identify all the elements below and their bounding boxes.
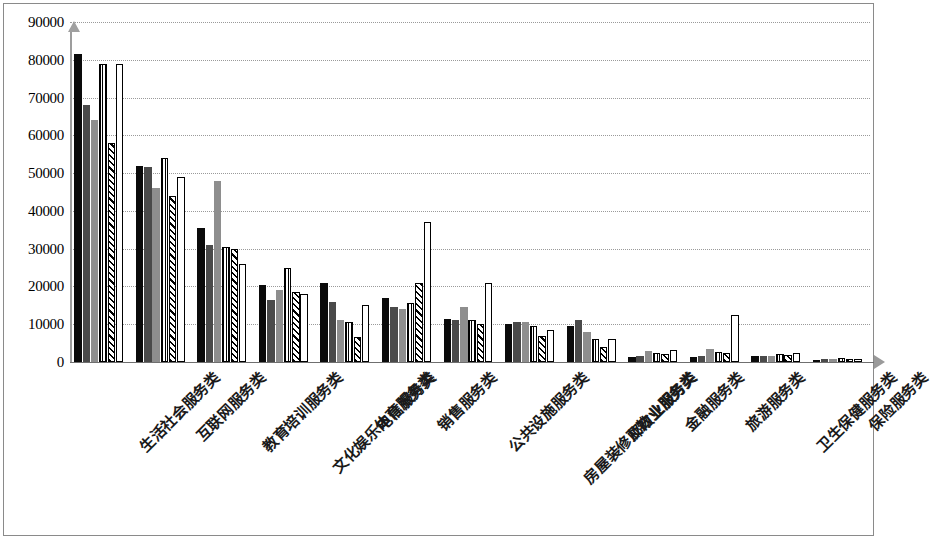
y-tick-label: 30000 — [0, 241, 64, 256]
y-tick-label: 40000 — [0, 203, 64, 218]
bar-group — [751, 22, 800, 362]
bar-group — [690, 22, 739, 362]
bar — [74, 54, 81, 362]
x-axis-arrow-icon — [874, 355, 885, 369]
bar — [231, 249, 238, 362]
y-axis — [70, 28, 72, 362]
bar — [793, 353, 800, 362]
bar-group — [813, 22, 862, 362]
x-tick-label: 公共设施服务类 — [507, 370, 592, 455]
bar — [169, 196, 176, 362]
bar — [784, 355, 791, 362]
bar — [91, 120, 98, 362]
bar — [821, 359, 828, 362]
bar — [362, 305, 369, 362]
bar — [415, 283, 422, 362]
bar — [768, 356, 775, 362]
bar — [177, 177, 184, 362]
x-tick-label: 旅游服务类 — [744, 370, 808, 434]
bar-group — [444, 22, 493, 362]
bar — [276, 290, 283, 362]
bar — [538, 336, 545, 362]
bar — [136, 166, 143, 362]
y-tick-label: 60000 — [0, 128, 64, 143]
bar — [284, 268, 291, 362]
bar — [382, 298, 389, 362]
bar — [661, 354, 668, 362]
y-tick-label: 80000 — [0, 52, 64, 67]
bar — [829, 359, 836, 362]
bar — [575, 320, 582, 362]
bar — [144, 167, 151, 362]
bar — [407, 303, 414, 362]
bar — [206, 245, 213, 362]
bar — [477, 324, 484, 362]
bar — [460, 307, 467, 362]
bar — [698, 356, 705, 362]
bar-group — [74, 22, 123, 362]
y-tick-label: 10000 — [0, 317, 64, 332]
bar — [846, 359, 853, 362]
bar — [567, 326, 574, 362]
bar — [108, 143, 115, 362]
bar — [354, 337, 361, 362]
bar — [592, 339, 599, 362]
x-tick-label: 销售服务类 — [436, 370, 500, 434]
bar — [505, 324, 512, 362]
bar — [345, 322, 352, 362]
bar — [399, 309, 406, 362]
bar — [444, 319, 451, 362]
x-tick-label: 教育培训服务类 — [261, 370, 346, 455]
bar — [608, 339, 615, 362]
x-tick-label: 邮政业服务类 — [625, 370, 699, 444]
bar — [222, 247, 229, 362]
bar — [259, 285, 266, 362]
bar-group — [382, 22, 431, 362]
bar — [99, 64, 106, 362]
bar — [390, 307, 397, 362]
bar — [547, 330, 554, 362]
x-axis — [70, 362, 876, 363]
bar — [760, 356, 767, 362]
bar — [485, 283, 492, 362]
bar — [320, 283, 327, 362]
bar-group — [320, 22, 369, 362]
bar — [522, 322, 529, 362]
x-tick-label: 生活社会服务类 — [138, 370, 223, 455]
bar — [583, 332, 590, 362]
bar — [776, 354, 783, 362]
x-tick-label: 电信服务类 — [375, 370, 439, 434]
y-tick-label: 70000 — [0, 90, 64, 105]
bar — [197, 228, 204, 362]
bar — [751, 356, 758, 362]
bar — [636, 356, 643, 362]
bar-group — [628, 22, 677, 362]
y-tick-label: 90000 — [0, 15, 64, 30]
bar — [653, 353, 660, 362]
bar-group — [567, 22, 616, 362]
bar — [645, 351, 652, 362]
bar — [600, 347, 607, 362]
bar — [854, 359, 861, 362]
bar — [161, 158, 168, 362]
bar — [513, 322, 520, 362]
bar — [292, 292, 299, 362]
chart-frame: 0100002000030000400005000060000700008000… — [3, 3, 874, 536]
bar — [329, 302, 336, 362]
bar-group — [136, 22, 185, 362]
bar — [813, 360, 820, 362]
bar — [337, 320, 344, 362]
bar — [670, 350, 677, 362]
plot-area: 0100002000030000400005000060000700008000… — [70, 22, 870, 362]
bar — [424, 222, 431, 362]
bar — [706, 349, 713, 362]
bar — [731, 315, 738, 362]
bar — [690, 357, 697, 362]
bar-group — [197, 22, 246, 362]
bar — [452, 320, 459, 362]
bar — [723, 353, 730, 362]
bar — [267, 300, 274, 362]
bar — [530, 326, 537, 362]
y-tick-label: 0 — [0, 355, 64, 370]
bar — [239, 264, 246, 362]
